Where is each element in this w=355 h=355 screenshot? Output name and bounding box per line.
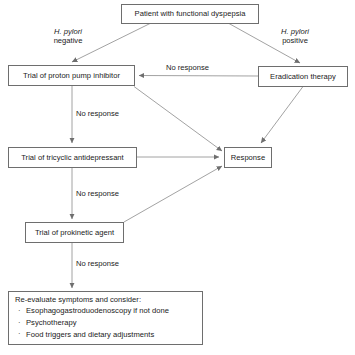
edge-label-no-response-prokinetic-to-reevaluate: No response [76, 260, 119, 269]
list-item-label: Esophagogastroduodenoscopy if not done [26, 306, 169, 315]
node-trial-of-prokinetic-agent: Trial of prokinetic agent [25, 222, 124, 243]
edge-label-h-pylori-positive: H. pylori positive [265, 28, 325, 46]
node-response: Response [224, 147, 272, 168]
bullet-glyph: · [18, 305, 21, 317]
node-ppi-label: Trial of proton pump inhibitor [23, 72, 120, 80]
node-trial-of-proton-pump-inhibitor: Trial of proton pump inhibitor [8, 65, 135, 86]
edge-label-no-response-ppi-to-tricyclic: No response [76, 110, 119, 119]
reevaluate-title: Re-evaluate symptoms and consider: [15, 296, 196, 304]
node-eradication-label: Eradication therapy [270, 73, 336, 81]
edge-prokinetic-to-response [124, 166, 222, 222]
h-pylori-positive-status: positive [265, 37, 325, 46]
list-item: · Food triggers and dietary adjustments [15, 329, 196, 341]
edge-label-no-response-eradication-to-ppi: No response [166, 64, 209, 73]
node-tricyclic-label: Trial of tricyclic antidepressant [21, 154, 124, 162]
h-pylori-negative-status: negative [38, 37, 98, 46]
no-response-label: No response [76, 189, 119, 198]
no-response-label: No response [166, 63, 209, 72]
node-eradication-therapy: Eradication therapy [258, 66, 348, 87]
list-item-label: Psychotherapy [26, 318, 77, 327]
list-item: · Psychotherapy [15, 317, 196, 329]
edge-label-h-pylori-negative: H. pylori negative [38, 28, 98, 46]
node-reevaluate-symptoms-and-consider: Re-evaluate symptoms and consider: · Eso… [8, 291, 203, 345]
node-prokinetic-label: Trial of prokinetic agent [35, 229, 114, 237]
list-item: · Esophagogastroduodenoscopy if not done [15, 305, 196, 317]
flowchart-canvas: Patient with functional dyspepsia Trial … [0, 0, 355, 355]
edge-eradication-to-response [261, 87, 303, 144]
edge-label-no-response-tricyclic-to-prokinetic: No response [76, 190, 119, 199]
edge-eradication-to-ppi [139, 76, 258, 77]
node-patient-with-functional-dyspepsia: Patient with functional dyspepsia [121, 4, 259, 24]
reevaluate-list: · Esophagogastroduodenoscopy if not done… [15, 305, 196, 340]
node-patient-label: Patient with functional dyspepsia [135, 10, 246, 18]
bullet-glyph: · [18, 328, 21, 340]
edge-ppi-to-response [134, 87, 222, 152]
bullet-glyph: · [18, 317, 21, 329]
no-response-label: No response [76, 259, 119, 268]
list-item-label: Food triggers and dietary adjustments [26, 330, 154, 339]
no-response-label: No response [76, 109, 119, 118]
node-response-label: Response [231, 154, 265, 162]
node-trial-of-tricyclic-antidepressant: Trial of tricyclic antidepressant [8, 147, 137, 168]
